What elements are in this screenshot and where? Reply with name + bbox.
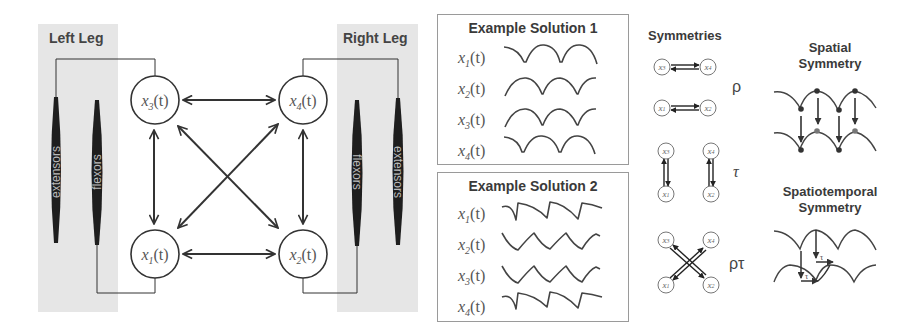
sol2-trace-x4 <box>502 292 602 309</box>
spatial-symmetry-title: Spatial Symmetry <box>790 40 870 72</box>
sol1-trace-x3 <box>505 109 596 127</box>
right-flexors-label: flexors <box>350 154 364 189</box>
cpg-network-diagram: extensors flexors flexors extensors x3(t… <box>0 0 430 335</box>
left-flexors-label: flexors <box>90 154 104 189</box>
sol2-trace-x2 <box>502 233 600 250</box>
symmetries-diagram: x3 x4 x1 x2 x3 x1 x4 x2 x3 x4 x1 x2 ρ τ … <box>640 40 760 300</box>
sol2-label-x2: x2(t) <box>457 236 485 256</box>
coupling-arrows <box>154 100 303 254</box>
sol2-label-x3: x3(t) <box>457 267 485 287</box>
example-solutions-traces: x1(t) x2(t) x3(t) x4(t) x1(t) x2(t) x3(t… <box>430 0 630 335</box>
sol1-trace-x4 <box>504 136 595 154</box>
tau-symbol: τ <box>733 163 740 180</box>
sol1-label-x4: x4(t) <box>457 142 485 162</box>
tau-label-upper: τ <box>820 253 824 262</box>
sol1-trace-x2 <box>505 78 596 96</box>
sol1-label-x2: x2(t) <box>457 80 485 100</box>
sol2-trace-x3 <box>502 266 600 283</box>
sol1-label-x1: x1(t) <box>457 49 485 69</box>
spatiotemporal-symmetry-diagram: τ τ <box>770 225 890 285</box>
left-extensors-label: extensors <box>49 146 63 198</box>
sol1-trace-x1 <box>504 45 597 64</box>
sol2-label-x4: x4(t) <box>457 298 485 318</box>
rho-symbol: ρ <box>732 78 741 95</box>
sol2-trace-x1 <box>502 202 602 220</box>
spatiotemporal-symmetry-title: Spatiotemporal Symmetry <box>770 184 890 216</box>
sol1-label-x3: x3(t) <box>457 111 485 131</box>
spatial-symmetry-diagram <box>770 80 890 165</box>
rho-tau-symbol: ρτ <box>729 255 745 272</box>
right-extensors-label: extensors <box>391 146 405 198</box>
tau-label-lower: τ <box>805 272 809 281</box>
sol2-label-x1: x1(t) <box>457 205 485 225</box>
